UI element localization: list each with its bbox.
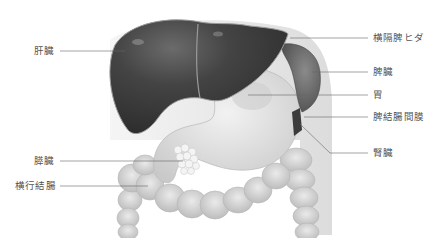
ascending-colon-shape bbox=[117, 189, 142, 238]
label-pancreas: 膵臓 bbox=[34, 155, 54, 167]
label-stomach: 胃 bbox=[373, 89, 383, 101]
label-transverse-colon: 横行結腸 bbox=[15, 180, 56, 192]
label-liver: 肝臓 bbox=[34, 45, 54, 57]
label-kidney: 腎臓 bbox=[373, 147, 393, 159]
label-spleen: 脾臓 bbox=[373, 66, 393, 78]
anatomy-diagram: 肝臓 膵臓 横行結腸 横隔脾ヒダ 脾臓 胃 脾結腸間膜 腎臓 bbox=[0, 0, 441, 238]
label-splenocolic-ligament: 脾結腸間膜 bbox=[373, 111, 424, 123]
label-phrenicosplenic-ligament: 横隔脾ヒダ bbox=[373, 32, 424, 44]
